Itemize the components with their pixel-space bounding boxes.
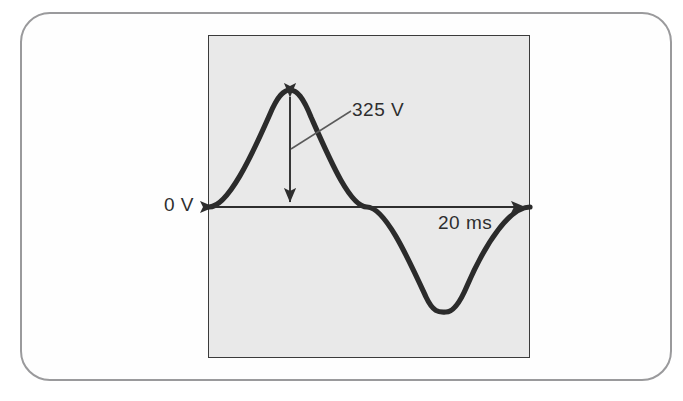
sine-wave-curve (209, 90, 530, 312)
peak-voltage-label: 325 V (352, 99, 404, 121)
zero-volt-label: 0 V (164, 194, 194, 216)
waveform-diagram-screenshot: 0 V 325 V 20 ms (0, 0, 683, 401)
waveform-vector-layer (0, 0, 683, 401)
period-label: 20 ms (438, 212, 492, 234)
